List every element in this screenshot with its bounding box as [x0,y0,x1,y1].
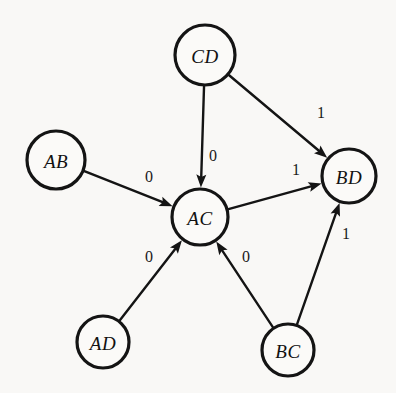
node-label: BD [336,167,362,188]
edge-weight-label: 0 [145,168,153,185]
arrowhead-icon [216,242,227,256]
node-ad[interactable]: AD [77,316,129,368]
edge-cd-to-ac [196,86,206,187]
edge-weight-label: 1 [342,225,350,242]
edge-ac-to-bd [228,182,321,209]
edge-weight-label: 1 [292,161,300,178]
node-label: AB [42,151,68,172]
node-label: AD [88,333,116,354]
edge-bc-to-bd [297,203,340,324]
node-bc[interactable]: BC [262,324,314,376]
node-cd[interactable]: CD [175,25,235,85]
edge-line [228,186,311,209]
node-bd[interactable]: BD [322,149,376,203]
diagram-canvas: CDABBDACADBC 1001001 [0,0,396,393]
node-label: CD [191,46,218,67]
node-label: AC [185,208,212,229]
node-ac[interactable]: AC [172,189,228,245]
nodes-layer: CDABBDACADBC [27,25,376,376]
edge-line [229,75,319,151]
edge-ab-to-ac [84,171,172,206]
node-label: BC [275,341,300,362]
edge-weight-label: 0 [242,248,250,265]
edge-weight-label: 1 [317,104,325,121]
edge-line [201,86,204,177]
node-ab[interactable]: AB [27,131,85,189]
edge-weight-label: 0 [145,248,153,265]
directed-graph: CDABBDACADBC 1001001 [0,0,396,393]
edge-cd-to-bd [229,75,327,157]
edge-weight-label: 0 [209,147,217,164]
edge-line [297,212,336,324]
